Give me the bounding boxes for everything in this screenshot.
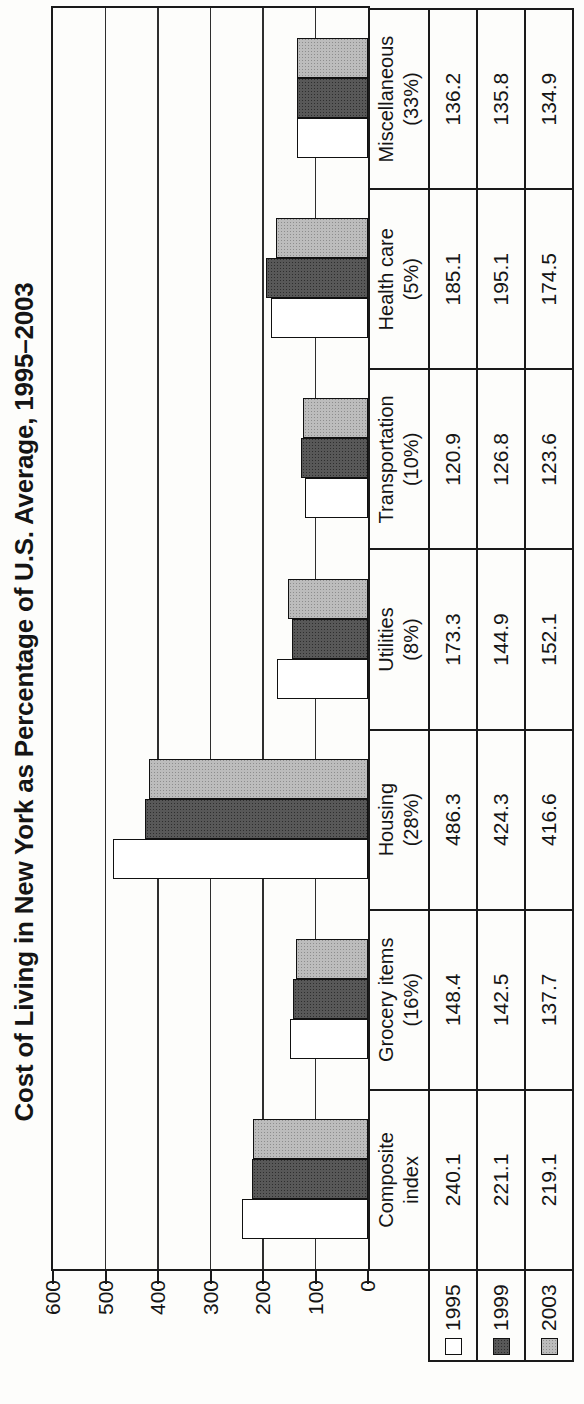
bar-1999-transportation: [301, 438, 368, 478]
y-tick-label-300: 300: [199, 1280, 223, 1356]
chart-figure: Cost of Living in New York as Percentage…: [0, 0, 584, 1404]
plot-area: [51, 6, 370, 1271]
legend-label-1999: 1999: [489, 1284, 513, 1331]
value-2003-miscellaneous: 134.9: [525, 9, 573, 189]
legend-label-2003: 2003: [537, 1284, 561, 1331]
value-1999-composite: 221.1: [477, 1090, 525, 1270]
value-2003-composite: 219.1: [525, 1090, 573, 1270]
bar-1995-grocery-items: [290, 1019, 368, 1059]
category-percent: (5%): [399, 190, 424, 368]
legend-swatch-1995: [445, 1338, 462, 1355]
bar-1995-housing: [113, 839, 368, 879]
category-percent: (28%): [399, 731, 424, 909]
bar-1995-transportation: [305, 478, 369, 518]
y-tick-mark-300: [210, 1271, 212, 1284]
category-name: Composite: [374, 1091, 399, 1269]
category-name: Housing: [374, 731, 399, 909]
category-name: Utilities: [374, 550, 399, 728]
value-1995-health-care: 185.1: [429, 189, 477, 369]
category-percent: (8%): [399, 550, 424, 728]
y-tick-mark-500: [105, 1271, 107, 1284]
bar-group-composite: [53, 1089, 368, 1269]
legend-row-header-1999: 1999: [477, 1270, 525, 1361]
value-1999-grocery-items: 142.5: [477, 910, 525, 1090]
bar-1999-miscellaneous: [297, 78, 368, 118]
bar-1999-grocery-items: [293, 979, 368, 1019]
value-2003-transportation: 123.6: [525, 369, 573, 549]
value-2003-health-care: 174.5: [525, 189, 573, 369]
legend-swatch-2003: [541, 1338, 558, 1355]
legend-row-header-1995: 1995: [429, 1270, 477, 1361]
category-header-transportation: Transportation(10%): [370, 369, 429, 549]
category-percent: index: [399, 1091, 424, 1269]
category-header-grocery-items: Grocery items(16%): [370, 910, 429, 1090]
category-percent: (33%): [399, 10, 424, 188]
bar-group-housing: [53, 729, 368, 909]
y-tick-label-100: 100: [304, 1280, 328, 1356]
category-header-miscellaneous: Miscellaneous(33%): [370, 9, 429, 189]
bar-group-health-care: [53, 188, 368, 368]
bar-1995-health-care: [271, 298, 368, 338]
value-2003-housing: 416.6: [525, 730, 573, 910]
y-tick-label-200: 200: [251, 1280, 275, 1356]
value-1995-housing: 486.3: [429, 730, 477, 910]
legend-row-header-2003: 2003: [525, 1270, 573, 1361]
scanned-page: Cost of Living in New York as Percentage…: [0, 0, 584, 1404]
value-2003-grocery-items: 137.7: [525, 910, 573, 1090]
bar-1995-utilities: [277, 659, 368, 699]
category-header-housing: Housing(28%): [370, 730, 429, 910]
category-name: Health care: [374, 190, 399, 368]
bar-2003-utilities: [288, 579, 368, 619]
y-tick-mark-0: [367, 1271, 369, 1284]
bar-1999-housing: [145, 799, 368, 839]
y-tick-mark-200: [262, 1271, 264, 1284]
value-1995-utilities: 173.3: [429, 549, 477, 729]
value-1995-composite: 240.1: [429, 1090, 477, 1270]
bar-1995-composite: [242, 1199, 368, 1239]
bar-2003-composite: [253, 1119, 368, 1159]
value-1999-housing: 424.3: [477, 730, 525, 910]
category-header-composite: Compositeindex: [370, 1090, 429, 1270]
bar-group-miscellaneous: [53, 8, 368, 188]
value-1999-transportation: 126.8: [477, 369, 525, 549]
category-name: Transportation: [374, 370, 399, 548]
category-percent: (16%): [399, 911, 424, 1089]
bar-groups: [53, 8, 368, 1269]
value-1999-health-care: 195.1: [477, 189, 525, 369]
y-tick-mark-400: [157, 1271, 159, 1284]
value-1999-miscellaneous: 135.8: [477, 9, 525, 189]
bar-1999-composite: [252, 1159, 368, 1199]
category-header-health-care: Health care(5%): [370, 189, 429, 369]
value-1995-grocery-items: 148.4: [429, 910, 477, 1090]
legend-label-1995: 1995: [441, 1284, 465, 1331]
bar-2003-grocery-items: [296, 939, 368, 979]
y-tick-mark-600: [52, 1271, 54, 1284]
category-percent: (10%): [399, 370, 424, 548]
bar-group-transportation: [53, 368, 368, 548]
category-name: Miscellaneous: [374, 10, 399, 188]
value-1995-transportation: 120.9: [429, 369, 477, 549]
category-name: Grocery items: [374, 911, 399, 1089]
category-header-utilities: Utilities(8%): [370, 549, 429, 729]
bar-1999-utilities: [292, 619, 368, 659]
bar-1995-miscellaneous: [297, 118, 369, 158]
bar-2003-health-care: [276, 218, 368, 258]
y-tick-label-600: 600: [41, 1280, 65, 1356]
legend-swatch-1999: [493, 1338, 510, 1355]
y-tick-label-500: 500: [94, 1280, 118, 1356]
bar-2003-housing: [149, 759, 368, 799]
chart-title: Cost of Living in New York as Percentage…: [9, 0, 40, 1404]
value-1999-utilities: 144.9: [477, 549, 525, 729]
y-tick-label-400: 400: [146, 1280, 170, 1356]
bar-group-utilities: [53, 548, 368, 728]
bar-2003-miscellaneous: [297, 38, 368, 78]
y-tick-mark-100: [315, 1271, 317, 1284]
bar-2003-transportation: [303, 398, 368, 438]
data-table: CompositeindexGrocery items(16%)Housing(…: [370, 8, 574, 1362]
table-corner-empty: [370, 1270, 429, 1361]
value-1995-miscellaneous: 136.2: [429, 9, 477, 189]
bar-1999-health-care: [266, 258, 368, 298]
bar-group-grocery-items: [53, 909, 368, 1089]
value-2003-utilities: 152.1: [525, 549, 573, 729]
